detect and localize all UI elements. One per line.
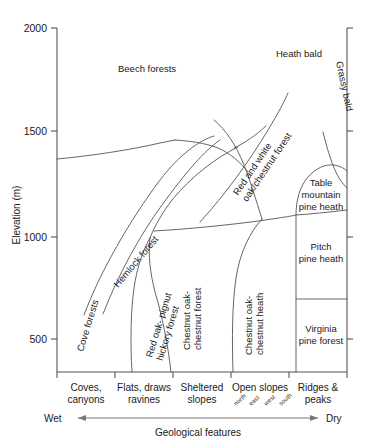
gradient-arrowhead-left — [78, 415, 86, 421]
zone-label-virginia-line1: Virginia — [305, 323, 337, 334]
zone-label-chestnut-oak-forest: Chestnut oak- chestnut forest — [181, 287, 203, 350]
x-cat-2-line2: slopes — [188, 394, 217, 405]
moisture-gradient: Wet Dry Geological features — [44, 413, 342, 438]
zone-label-virginia-line2: pine forest — [299, 335, 344, 346]
zone-label-beech-forests: Beech forests — [118, 63, 176, 74]
aspect-label-east: east — [247, 394, 261, 407]
zone-label-hemlock-forest: Hemlock forest — [111, 233, 160, 289]
x-cat-1-line1: Flats, draws — [117, 382, 171, 393]
zone-label-chestnut-heath-line1: Chestnut oak- — [243, 296, 254, 355]
zone-label-chestnut-forest-line1: Chestnut oak- — [181, 291, 192, 350]
zone-label-chestnut-oak-heath: Chestnut oak- chestnut heath — [243, 293, 265, 355]
gradient-arrowhead-right — [310, 415, 318, 421]
zone-label-table-mtn-line2: mountain — [301, 189, 340, 200]
gradient-label-wet: Wet — [44, 413, 62, 424]
y-tick-label-1500: 1500 — [24, 125, 48, 137]
zone-label-pitch-line1: Pitch — [310, 241, 331, 252]
vegetation-gradient-diagram: 2000 1500 1000 500 Elevation (m) — [0, 0, 365, 440]
aspect-label-west: west — [261, 393, 276, 408]
y-tick-label-1000: 1000 — [24, 231, 48, 243]
y-tick-label-500: 500 — [29, 333, 47, 345]
x-category-labels: Coves, canyons Flats, draws ravines Shel… — [67, 382, 338, 405]
zone-label-virginia-pine-forest: Virginia pine forest — [299, 323, 344, 346]
aspect-label-south: south — [277, 391, 293, 407]
y-axis-title: Elevation (m) — [11, 186, 22, 245]
zone-label-heath-bald: Heath bald — [276, 48, 322, 59]
aspect-label-north: north — [232, 392, 248, 407]
x-cat-1-line2: ravines — [128, 394, 160, 405]
x-cat-2-line1: Sheltered — [181, 382, 224, 393]
zone-label-chestnut-forest-line2: chestnut forest — [192, 287, 203, 350]
y-tick-labels: 2000 1500 1000 500 — [24, 22, 48, 345]
zone-label-table-mtn-line3: pine heath — [299, 201, 343, 212]
x-cat-3-line1: Open slopes — [232, 382, 288, 393]
x-cat-0-line2: canyons — [67, 394, 104, 405]
zone-label-cove-forests: Cove forests — [74, 298, 100, 352]
zone-label-table-mtn-line1: Table — [310, 177, 333, 188]
diagram-canvas: 2000 1500 1000 500 Elevation (m) — [0, 0, 365, 440]
y-tick-label-2000: 2000 — [24, 22, 48, 34]
boundary-chestnut-band-top — [154, 215, 296, 231]
x-cat-0-line1: Coves, — [70, 382, 101, 393]
x-axis-title: Geological features — [155, 427, 241, 438]
zone-label-pitch-line2: pine heath — [299, 253, 343, 264]
boundary-wedge-upper — [175, 140, 248, 172]
gradient-label-dry: Dry — [326, 413, 342, 424]
zone-label-grassy-bald: Grassy bald — [334, 60, 355, 112]
zone-label-red-oak-hickory: Red oak- pignut hickory forest — [143, 291, 184, 362]
x-cat-4-line1: Ridges & — [298, 382, 339, 393]
zone-label-pitch-pine-heath: Pitch pine heath — [299, 241, 343, 264]
x-cat-4-line2: peaks — [305, 394, 332, 405]
boundary-beech-lower — [57, 140, 175, 159]
zone-label-table-mountain-pine-heath: Table mountain pine heath — [299, 177, 343, 212]
aspect-sublabels: north east west south — [232, 391, 293, 407]
zone-label-chestnut-heath-line2: chestnut heath — [254, 293, 265, 355]
